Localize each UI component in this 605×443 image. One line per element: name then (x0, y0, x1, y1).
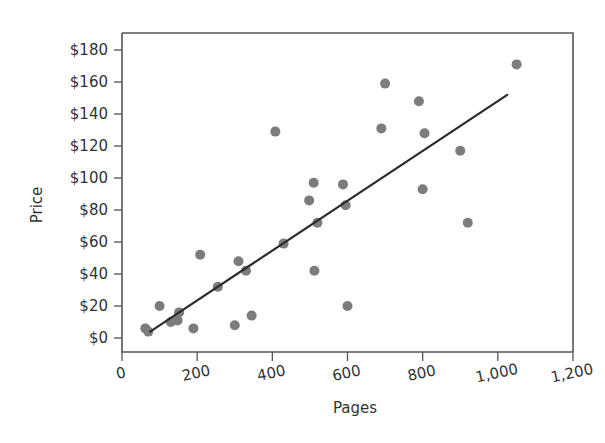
data-point (234, 256, 244, 266)
data-point (309, 178, 319, 188)
data-point (376, 123, 386, 133)
data-point (420, 128, 430, 138)
data-point (195, 250, 205, 260)
y-axis-ticks (114, 50, 122, 338)
data-point (155, 301, 165, 311)
data-point (343, 301, 353, 311)
data-point (418, 184, 428, 194)
data-point (270, 127, 280, 137)
data-point (380, 79, 390, 89)
x-axis-tick-labels: 02004006008001,0001,200 (114, 360, 594, 387)
y-tick-label: $60 (79, 233, 108, 251)
x-tick-label: 1,000 (474, 360, 520, 387)
data-point (188, 323, 198, 333)
y-tick-label: $140 (70, 105, 108, 123)
data-point (338, 179, 348, 189)
y-tick-label: $120 (70, 137, 108, 155)
x-axis-title: Pages (333, 399, 377, 417)
y-tick-label: $20 (79, 297, 108, 315)
data-point (455, 146, 465, 156)
trend-line (150, 95, 507, 332)
x-tick-label: 600 (331, 361, 363, 385)
y-axis-tick-labels: $0$20$40$60$80$100$120$140$160$180 (70, 41, 108, 347)
data-point (230, 320, 240, 330)
x-tick-label: 1,200 (549, 360, 595, 387)
x-tick-label: 400 (255, 361, 287, 385)
x-tick-label: 800 (406, 361, 438, 385)
y-tick-label: $180 (70, 41, 108, 59)
chart-canvas: $0$20$40$60$80$100$120$140$160$180 02004… (0, 0, 605, 443)
data-point (512, 59, 522, 69)
x-tick-label: 0 (114, 363, 127, 383)
y-tick-label: $100 (70, 169, 108, 187)
data-point (414, 96, 424, 106)
y-tick-label: $160 (70, 73, 108, 91)
x-axis-ticks (122, 352, 573, 361)
y-tick-label: $40 (79, 265, 108, 283)
data-point (304, 195, 314, 205)
x-tick-label: 200 (180, 361, 212, 385)
scatter-plot-figure: $0$20$40$60$80$100$120$140$160$180 02004… (0, 0, 605, 443)
data-point (309, 266, 319, 276)
y-tick-label: $80 (79, 201, 108, 219)
data-point (463, 218, 473, 228)
y-tick-label: $0 (89, 329, 108, 347)
data-point (247, 311, 257, 321)
y-axis-title: Price (28, 187, 46, 224)
data-points (140, 59, 521, 336)
